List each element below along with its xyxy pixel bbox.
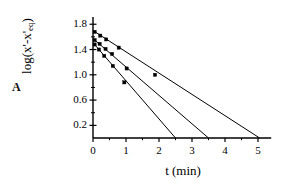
- x-tick-label: 5: [250, 145, 266, 156]
- data-point-marker: [103, 54, 106, 57]
- data-point-marker: [98, 42, 101, 45]
- y-tick-label: 0.6: [61, 94, 87, 105]
- data-point-marker: [93, 30, 96, 33]
- x-tick-label: 1: [118, 145, 134, 156]
- x-axis-label: t (min): [93, 163, 273, 179]
- data-point-marker: [117, 46, 120, 49]
- data-point-marker: [111, 64, 114, 67]
- y-axis-label-tail: ): [19, 18, 34, 22]
- series-intermediate-decay: [93, 38, 208, 138]
- series-slowest-decay: [93, 30, 260, 138]
- x-tick-label: 0: [85, 145, 101, 156]
- data-point-marker: [93, 38, 96, 41]
- y-tick-label: 1.8: [61, 18, 87, 29]
- data-point-marker: [111, 52, 114, 55]
- data-point-marker: [104, 47, 107, 50]
- y-axis-label-base: log(x'-x': [19, 31, 34, 74]
- figure-panel-a: A log(x'-x'eq) t (min) 0.20.61.01.41.801…: [0, 0, 298, 186]
- x-tick-label: 4: [217, 145, 233, 156]
- x-tick-label: 3: [184, 145, 200, 156]
- data-point-marker: [105, 38, 108, 41]
- y-axis-label-subscript: eq: [25, 22, 35, 31]
- plot-canvas: [0, 0, 298, 186]
- data-point-marker: [97, 48, 100, 51]
- x-tick-label: 2: [151, 145, 167, 156]
- y-tick-label: 1.0: [61, 69, 87, 80]
- axes-group: [90, 17, 272, 142]
- data-point-marker: [123, 81, 126, 84]
- data-point-marker: [125, 67, 128, 70]
- y-tick-label: 0.2: [61, 119, 87, 130]
- y-tick-label: 1.4: [61, 44, 87, 55]
- data-point-marker: [99, 34, 102, 37]
- data-point-marker: [93, 43, 96, 46]
- y-axis-label: log(x'-x'eq): [19, 0, 35, 101]
- data-point-marker: [153, 73, 156, 76]
